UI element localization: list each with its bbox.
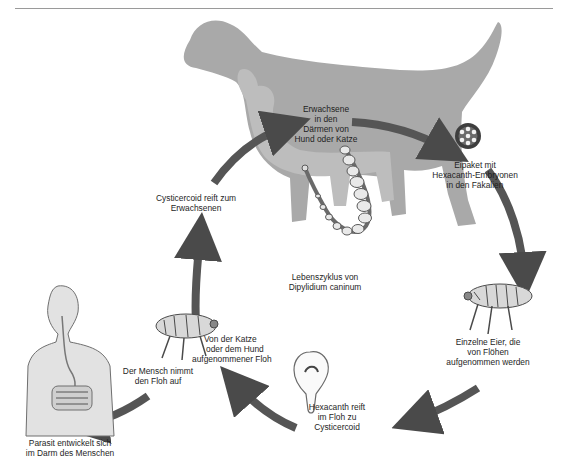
arrow-hexacanth-to-pet-flea (236, 384, 296, 428)
egg-packet-icon (455, 123, 481, 149)
stage-label-human-ingests: Der Mensch nimmt den Floh auf (118, 366, 198, 386)
stage-label-eggs-eaten: Einzelne Eier, die von Flöhen aufgenomme… (440, 337, 536, 367)
arrow-flea-to-hexacanth (414, 388, 478, 420)
stage-label-egg-packet: Eipaket mit Hexacanth-Embryonen in den F… (425, 160, 525, 190)
flea-icon (464, 284, 532, 334)
life-cycle-illustration (0, 0, 567, 474)
arrow-pet-flea-to-cysticercoid (195, 236, 200, 322)
stage-label-adult-in-host: Erwachsene in den Därmen von Hund oder K… (286, 104, 366, 144)
center-title: Lebenszyklus von Dipylidium caninum (280, 272, 370, 292)
stage-label-human-infection: Parasit entwickelt sich im Darm des Mens… (18, 438, 122, 458)
stage-label-hexacanth: Hexacanth reift im Floh zu Cysticercoid (300, 402, 374, 432)
stage-label-cysticercoid-matures: Cysticercoid reift zum Erwachsenen (148, 193, 244, 213)
human-torso-icon (26, 286, 114, 436)
stage-label-pet-flea: Von der Katze oder dem Hund aufgenommene… (184, 334, 284, 364)
